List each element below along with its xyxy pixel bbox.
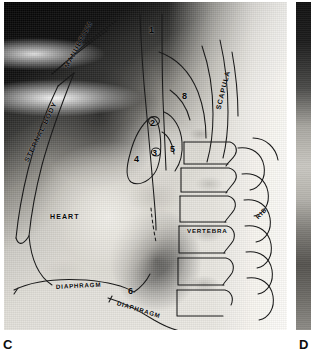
label-heart: HEART: [50, 213, 80, 220]
marker-number-8: 8: [182, 92, 187, 101]
label-vertebra: VERTEBRA: [187, 228, 227, 234]
sternum-outline: [16, 21, 116, 243]
marker-number-2: 2: [150, 119, 155, 128]
marker-number-3: 3: [152, 149, 157, 158]
marker-number-6: 6: [128, 287, 133, 296]
marker-number-4: 4: [134, 155, 139, 164]
marker-number-5: 5: [170, 145, 175, 154]
marker-number-1: 1: [149, 26, 154, 35]
panel-letter-c: C: [3, 338, 13, 351]
panel-letter-d: D: [299, 338, 309, 351]
radiograph-panel-c: STERNAL BODY MANUBRIUM SCAPULA HEART VER…: [4, 2, 287, 330]
cardiac-border-outline: [151, 174, 156, 242]
radiograph-panel-d: [296, 2, 311, 330]
panel-d-film-grain: [296, 2, 311, 330]
rib-arcs: [238, 138, 278, 320]
anatomy-outline-overlay: [4, 2, 287, 330]
